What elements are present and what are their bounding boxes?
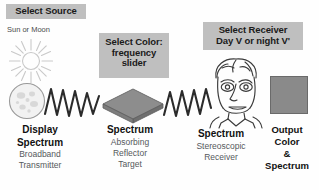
caption-output-heading-3: & <box>258 148 316 160</box>
sun-icon <box>8 38 54 84</box>
caption-receiver-sub-2: Receiver <box>183 152 259 163</box>
caption-output-color: Output Color & Spectrum <box>258 124 316 172</box>
caption-spectrum-target: Spectrum Absorbing Reflector Target <box>92 124 168 170</box>
note-sun-or-moon: Sun or Moon <box>7 25 50 34</box>
caption-display-spectrum: Display Spectrum Broadband Transmitter <box>2 124 78 171</box>
tag-select-receiver-line-2: Day V or night V' <box>203 36 303 47</box>
caption-receiver-heading-1: Spectrum <box>183 128 259 141</box>
tag-select-color[interactable]: Select Color: frequency slider <box>99 33 169 78</box>
caption-display-heading-1: Display <box>2 124 78 137</box>
caption-receiver-sub-1: Stereoscopic <box>183 141 259 152</box>
reflector-target-icon <box>102 88 164 126</box>
caption-display-heading-2: Spectrum <box>2 137 78 150</box>
caption-spectrum-sub-1: Absorbing <box>92 137 168 148</box>
caption-display-sub-2: Transmitter <box>2 160 78 171</box>
zigzag-wave-icon-left <box>44 84 102 120</box>
caption-output-heading-1: Output <box>258 124 316 136</box>
tag-select-source[interactable]: Select Source <box>6 4 86 19</box>
caption-spectrum-sub-3: Target <box>92 159 168 170</box>
output-color-swatch[interactable] <box>270 76 308 114</box>
caption-output-heading-4: Spectrum <box>258 160 316 172</box>
caption-display-sub-1: Broadband <box>2 149 78 160</box>
moon-icon <box>8 82 46 120</box>
receiver-face-icon <box>205 56 267 128</box>
tag-select-color-line-3: slider <box>99 58 169 69</box>
caption-spectrum-heading-1: Spectrum <box>92 124 168 137</box>
tag-select-source-line-1: Select Source <box>6 6 86 17</box>
caption-spectrum-sub-2: Reflector <box>92 148 168 159</box>
diagram-canvas: Select Source Select Color: frequency sl… <box>0 0 319 190</box>
caption-output-heading-2: Color <box>258 136 316 148</box>
tag-select-receiver[interactable]: Select Receiver Day V or night V' <box>203 22 303 50</box>
caption-spectrum-receiver: Spectrum Stereoscopic Receiver <box>183 128 259 163</box>
